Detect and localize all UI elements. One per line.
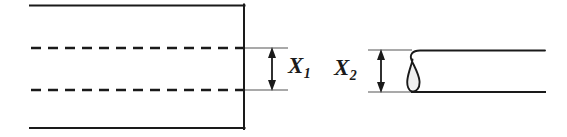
dimension-x2-group	[368, 49, 412, 93]
right-part-group	[407, 51, 545, 93]
left-part-group	[30, 5, 245, 130]
dimension-x1-group	[245, 47, 288, 91]
diagram-canvas	[0, 0, 567, 137]
dimension-label-x1: X1	[288, 54, 310, 77]
dimension-x1-arrowhead-down-icon	[268, 80, 276, 91]
dimension-label-x2-subscript: 2	[350, 68, 357, 83]
dimension-x2-arrowhead-down-icon	[377, 82, 385, 93]
dimension-label-x2-main: X	[334, 55, 349, 80]
dimension-label-x1-subscript: 1	[304, 66, 311, 81]
technical-diagram-figure: X1 X2	[0, 0, 567, 137]
dimension-x1-arrowhead-up-icon	[268, 47, 276, 58]
dimension-x2-arrowhead-up-icon	[377, 49, 385, 60]
dimension-label-x2: X2	[334, 56, 356, 79]
dimension-label-x1-main: X	[288, 53, 303, 78]
right-part-rolled-hem-outline	[407, 51, 545, 92]
